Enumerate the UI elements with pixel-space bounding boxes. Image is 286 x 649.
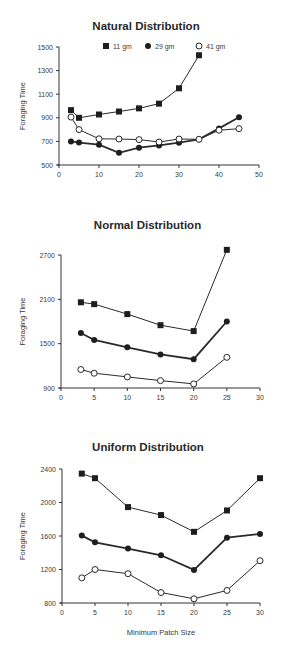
data-point (125, 571, 131, 577)
chart-title: Uniform Distribution (92, 441, 204, 453)
x-tick-label: 10 (124, 609, 132, 616)
data-point (124, 344, 130, 350)
data-point (158, 322, 164, 328)
x-tick-label: 0 (59, 394, 63, 401)
x-tick-label: 10 (95, 171, 103, 178)
data-point (92, 567, 98, 573)
data-point (116, 150, 122, 156)
x-tick-label: 30 (256, 394, 264, 401)
y-tick-label: 1100 (38, 91, 53, 98)
data-point (79, 533, 85, 539)
y-tick-label: 2700 (39, 252, 55, 259)
y-tick-label: 1300 (37, 67, 53, 74)
chart-title: Natural Distribution (92, 20, 199, 32)
series-11gm (68, 52, 202, 121)
series-11gm (79, 471, 263, 535)
series-11gm (78, 247, 230, 334)
chart-natural-distribution: Natural Distribution11 gm29 gm41 gm50070… (18, 20, 263, 178)
data-point (116, 109, 122, 115)
y-tick-label: 2000 (40, 499, 56, 506)
data-point (224, 247, 230, 253)
data-point (78, 367, 84, 373)
x-tick-label: 40 (215, 171, 223, 178)
y-axis-label: Foraging Time (18, 82, 27, 130)
data-point (68, 114, 74, 120)
data-point (191, 529, 197, 535)
data-point (156, 139, 162, 145)
series-line (81, 357, 227, 384)
data-point (91, 301, 97, 307)
data-point (125, 546, 131, 552)
data-point (236, 114, 242, 120)
data-point (216, 127, 222, 133)
data-point (76, 140, 82, 146)
data-point (196, 52, 202, 58)
x-tick-label: 20 (190, 394, 198, 401)
data-point (125, 504, 131, 510)
x-tick-label: 30 (175, 171, 183, 178)
y-tick-label: 900 (41, 114, 53, 121)
data-point (191, 328, 197, 334)
data-point (224, 354, 230, 360)
series-line (82, 474, 260, 532)
x-tick-label: 25 (223, 394, 231, 401)
data-point (91, 370, 97, 376)
y-tick-label: 900 (43, 385, 55, 392)
legend-label: 29 gm (155, 43, 175, 51)
x-tick-label: 20 (135, 171, 143, 178)
y-tick-label: 1500 (39, 340, 55, 347)
chart-title: Normal Distribution (94, 219, 201, 231)
data-point (79, 575, 85, 581)
data-point (96, 111, 102, 117)
data-point (68, 107, 74, 113)
x-tick-label: 25 (223, 609, 231, 616)
series-41gm (68, 114, 242, 145)
data-point (224, 535, 230, 541)
series-29gm (68, 114, 242, 156)
data-point (96, 136, 102, 142)
data-point (158, 378, 164, 384)
y-tick-label: 2400 (40, 466, 56, 473)
figure: Natural Distribution11 gm29 gm41 gm50070… (0, 0, 286, 649)
series-line (82, 561, 260, 599)
legend-marker-icon (145, 43, 151, 49)
y-tick-label: 1600 (40, 533, 56, 540)
legend-marker-icon (196, 43, 202, 49)
data-point (124, 374, 130, 380)
data-point (79, 471, 85, 477)
x-tick-label: 0 (57, 171, 61, 178)
series-29gm (79, 531, 263, 573)
y-tick-label: 500 (41, 162, 53, 169)
x-tick-label: 10 (123, 394, 131, 401)
data-point (124, 311, 130, 317)
series-line (81, 322, 227, 360)
series-41gm (79, 558, 263, 602)
x-tick-label: 30 (256, 609, 264, 616)
data-point (96, 142, 102, 148)
data-point (257, 475, 263, 481)
chart-normal-distribution: Normal Distribution900150021002700051015… (18, 219, 264, 401)
data-point (191, 356, 197, 362)
data-point (158, 351, 164, 357)
data-point (78, 330, 84, 336)
y-tick-label: 1500 (37, 44, 53, 51)
legend-label: 11 gm (113, 43, 132, 51)
x-tick-label: 5 (93, 609, 97, 616)
series-line (81, 250, 227, 331)
data-point (68, 138, 74, 144)
x-tick-label: 5 (92, 394, 96, 401)
y-tick-label: 800 (44, 600, 56, 607)
data-point (191, 567, 197, 573)
x-tick-label: 15 (157, 609, 165, 616)
legend-label: 41 gm (206, 43, 226, 51)
x-tick-label: 20 (190, 609, 198, 616)
data-point (196, 136, 202, 142)
data-point (257, 531, 263, 537)
data-point (76, 127, 82, 133)
series-line (82, 534, 260, 570)
data-point (116, 136, 122, 142)
series-29gm (78, 319, 230, 363)
data-point (78, 299, 84, 305)
data-point (136, 105, 142, 111)
data-point (92, 475, 98, 481)
